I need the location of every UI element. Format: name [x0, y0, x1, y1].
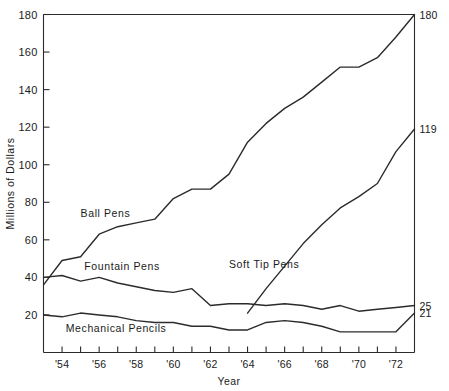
chart-canvas: 20406080100120140160180'54'56'58'60'62'6…	[0, 0, 449, 391]
x-axis-tick-label: '70	[352, 358, 366, 370]
series-end-value-mechanical-pencils: 21	[420, 307, 432, 319]
y-axis-tick-label: 20	[25, 309, 38, 321]
x-axis-tick-label: '62	[203, 358, 217, 370]
x-axis-tick-label: '54	[55, 358, 69, 370]
y-axis-tick-label: 80	[25, 196, 38, 208]
series-end-value-soft-tip-pens: 119	[420, 123, 437, 135]
x-axis-title: Year	[217, 375, 240, 387]
x-axis-tick-label: '72	[389, 358, 403, 370]
y-axis-tick-label: 100	[19, 159, 38, 171]
y-axis-title: Millions of Dollars	[4, 138, 16, 230]
y-axis-tick-label: 160	[19, 46, 38, 58]
series-label-fountain-pens: Fountain Pens	[84, 260, 160, 272]
x-axis-tick-label: '60	[166, 358, 180, 370]
x-axis-tick-label: '64	[240, 358, 254, 370]
y-axis-tick-label: 60	[25, 234, 38, 246]
x-axis-tick-label: '58	[129, 358, 143, 370]
x-axis-tick-label: '68	[315, 358, 329, 370]
y-axis-tick-label: 40	[25, 271, 38, 283]
y-axis-tick-label: 180	[19, 9, 38, 21]
x-axis-tick-label: '66	[278, 358, 292, 370]
series-label-soft-tip-pens: Soft Tip Pens	[229, 258, 299, 270]
series-line-soft-tip-pens	[248, 129, 415, 313]
x-axis-tick-label: '56	[92, 358, 106, 370]
y-axis-tick-label: 120	[19, 121, 38, 133]
series-end-value-ball-pens: 180	[420, 9, 438, 21]
line-chart: 20406080100120140160180'54'56'58'60'62'6…	[0, 0, 449, 391]
y-axis-tick-label: 140	[19, 84, 38, 96]
series-line-fountain-pens	[44, 276, 415, 312]
series-label-ball-pens: Ball Pens	[81, 207, 131, 219]
series-line-ball-pens	[44, 15, 415, 285]
series-label-mechanical-pencils: Mechanical Pencils	[66, 322, 167, 334]
